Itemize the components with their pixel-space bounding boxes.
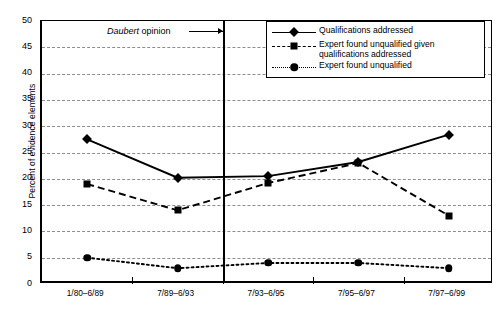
x-axis-tick-mark — [313, 277, 314, 284]
gridline — [42, 100, 491, 101]
legend-label: Expert found unqualified given qualifica… — [316, 40, 435, 59]
legend-label-line2: qualifications addressed — [319, 50, 435, 60]
chart-figure: Percent of evidence elements 05101520253… — [0, 0, 504, 313]
y-tick-label: 10 — [6, 226, 32, 235]
x-axis-tick-mark — [404, 277, 405, 284]
daubert-opinion-annotation: Daubert opinion — [107, 26, 171, 36]
y-tick-label: 35 — [6, 94, 32, 103]
legend-item-qualifications-addressed: Qualifications addressed — [272, 26, 478, 38]
data-point-marker — [355, 160, 362, 167]
y-tick-label: 5 — [6, 252, 32, 261]
legend-swatch-circle-dotted — [272, 62, 316, 73]
legend-label: Expert found unqualified — [316, 61, 412, 71]
x-axis-tick-mark — [132, 277, 133, 284]
gridline — [42, 126, 491, 127]
data-point-marker — [355, 259, 363, 267]
data-point-marker — [174, 264, 182, 272]
chart-legend: Qualifications addressed Expert found un… — [266, 21, 485, 78]
diamond-marker-icon — [289, 27, 299, 37]
y-tick-label: 0 — [6, 279, 32, 288]
x-tick-label: 7/89–6/93 — [131, 289, 221, 298]
y-tick-label: 20 — [6, 173, 32, 182]
x-tick-label: 7/97–6/99 — [402, 289, 492, 298]
data-point-marker — [445, 212, 452, 219]
y-tick-label: 25 — [6, 147, 32, 156]
data-point-marker — [264, 259, 272, 267]
y-tick-label: 50 — [6, 16, 32, 25]
gridline — [42, 231, 491, 232]
data-point-marker — [445, 264, 453, 272]
data-point-marker — [84, 181, 91, 188]
x-axis-tick-mark — [223, 277, 224, 284]
square-marker-icon — [291, 43, 298, 50]
x-tick-label: 7/93–6/95 — [221, 289, 311, 298]
y-tick-label: 40 — [6, 68, 32, 77]
circle-marker-icon — [290, 63, 298, 71]
legend-label: Qualifications addressed — [316, 26, 413, 36]
daubert-italic-word: Daubert — [107, 26, 139, 36]
annotation-arrow-head — [218, 28, 223, 34]
opinion-word: opinion — [139, 26, 171, 36]
y-tick-label: 45 — [6, 42, 32, 51]
gridline — [42, 205, 491, 206]
data-point-marker — [174, 207, 181, 214]
data-point-marker — [83, 254, 91, 262]
data-point-marker — [265, 180, 272, 187]
y-tick-label: 15 — [6, 200, 32, 209]
legend-swatch-diamond-solid — [272, 27, 316, 38]
daubert-divider-line — [223, 21, 225, 281]
legend-swatch-square-dashed — [272, 41, 316, 52]
gridline — [42, 153, 491, 154]
y-tick-label: 30 — [6, 121, 32, 130]
x-tick-label: 7/95–6/97 — [311, 289, 401, 298]
legend-item-expert-unqualified: Expert found unqualified — [272, 61, 478, 73]
plot-area: Daubert opinion Qualifications addressed… — [40, 20, 492, 283]
legend-item-expert-unqualified-given-quals: Expert found unqualified given qualifica… — [272, 40, 478, 59]
x-tick-label: 1/80–6/89 — [40, 289, 130, 298]
